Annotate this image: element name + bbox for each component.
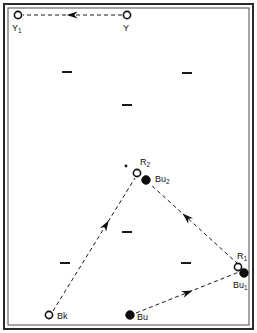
dash-upper-left (62, 71, 72, 73)
node-label-Bu2: Bu2 (155, 174, 170, 185)
node-label-R2: R2 (140, 157, 151, 168)
node-label-Y: Y (123, 23, 129, 33)
vector-Bk-to-R2 (53, 178, 135, 311)
dash-lower-right (181, 262, 191, 264)
arrowhead-Bu1-to-Bu2 (183, 214, 194, 224)
node-label-Y1: Y1 (12, 23, 22, 34)
arrowhead-Y-to-Y1 (67, 11, 78, 18)
node-label-Bk: Bk (57, 311, 68, 321)
dash-lower-center (122, 231, 132, 233)
node-label-R1: R1 (237, 251, 248, 262)
node-label-layer: Y1YR2Bu2R1Bu1BkBu (12, 23, 248, 322)
figure-inner-frame (8, 8, 249, 325)
node-marker-Bu1[interactable] (240, 269, 249, 278)
vector-layer (23, 11, 239, 313)
small-dot-marker (125, 165, 128, 168)
figure-outer-frame (4, 4, 253, 329)
node-layer (14, 11, 248, 319)
node-label-Bu: Bu (137, 312, 148, 322)
node-marker-R2[interactable] (133, 169, 140, 176)
dash-lower-left (60, 262, 70, 264)
tick-dash-layer (60, 71, 192, 264)
node-marker-R1[interactable] (234, 263, 241, 270)
arrowhead-Bk-to-R2 (100, 221, 109, 232)
figure-root: Y1YR2Bu2R1Bu1BkBu (0, 0, 257, 333)
dash-upper-center (122, 104, 132, 106)
node-marker-Bu2[interactable] (142, 176, 151, 185)
node-label-Bu1: Bu1 (233, 280, 248, 291)
vector-Bu1-to-Bu2 (150, 184, 238, 264)
dash-upper-right (182, 72, 192, 74)
diagram-canvas: Y1YR2Bu2R1Bu1BkBu (0, 0, 257, 333)
node-marker-Bk[interactable] (45, 311, 52, 318)
node-marker-Bu[interactable] (126, 311, 135, 320)
node-marker-Y[interactable] (123, 11, 130, 18)
node-marker-Y1[interactable] (14, 11, 21, 18)
